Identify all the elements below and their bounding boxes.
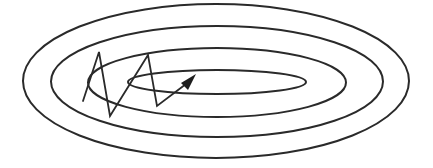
contour-outer (23, 4, 409, 158)
contour-group (23, 4, 409, 158)
contour-third (51, 26, 383, 137)
contour-diagram (0, 0, 433, 168)
contour-second (88, 48, 346, 117)
arrow-head-icon (181, 74, 196, 90)
zigzag-path (83, 52, 186, 116)
optimization-path (83, 52, 196, 116)
